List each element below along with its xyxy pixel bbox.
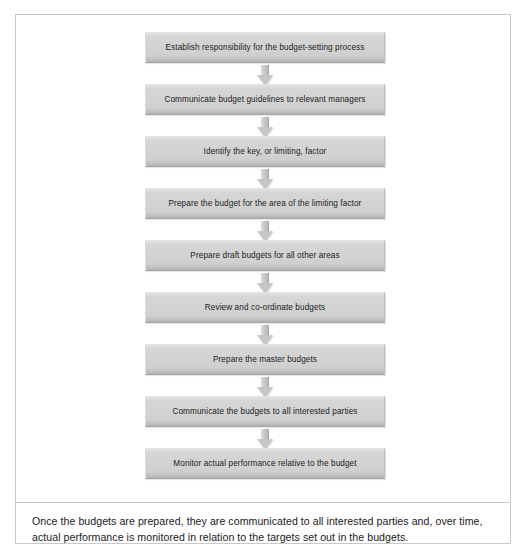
flow-arrow-1-to-2	[257, 65, 273, 86]
flow-step-9: Monitor actual performance relative to t…	[145, 448, 385, 479]
flow-step-5-label: Prepare draft budgets for all other area…	[190, 251, 339, 261]
flow-step-2-label: Communicate budget guidelines to relevan…	[164, 95, 365, 105]
figure-frame: Establish responsibility for the budget-…	[15, 14, 511, 544]
flow-step-8: Communicate the budgets to all intereste…	[145, 396, 385, 427]
flow-arrow-6-to-7	[257, 325, 273, 346]
flow-step-2: Communicate budget guidelines to relevan…	[145, 84, 385, 115]
caption-line-1: Once the budgets are prepared, they are …	[32, 513, 494, 529]
flow-step-1: Establish responsibility for the budget-…	[145, 32, 385, 63]
flow-arrow-4-to-5	[257, 221, 273, 242]
flow-arrow-8-to-9	[257, 429, 273, 450]
flow-arrow-5-to-6	[257, 273, 273, 294]
flow-step-7: Prepare the master budgets	[145, 344, 385, 375]
flow-arrow-2-to-3	[257, 117, 273, 138]
flow-step-5: Prepare draft budgets for all other area…	[145, 240, 385, 271]
flow-step-3-label: Identify the key, or limiting, factor	[204, 147, 327, 157]
flow-step-6-label: Review and co-ordinate budgets	[205, 303, 325, 313]
flow-step-4: Prepare the budget for the area of the l…	[145, 188, 385, 219]
flowchart: Establish responsibility for the budget-…	[16, 15, 510, 502]
flow-step-6: Review and co-ordinate budgets	[145, 292, 385, 323]
flow-step-7-label: Prepare the master budgets	[213, 355, 317, 365]
caption-line-2: actual performance is monitored in relat…	[32, 529, 494, 545]
flow-step-4-label: Prepare the budget for the area of the l…	[169, 199, 362, 209]
flow-step-1-label: Establish responsibility for the budget-…	[166, 43, 365, 53]
flow-arrow-7-to-8	[257, 377, 273, 398]
flow-step-9-label: Monitor actual performance relative to t…	[173, 459, 356, 469]
flow-arrow-3-to-4	[257, 169, 273, 190]
figure-caption: Once the budgets are prepared, they are …	[16, 503, 510, 543]
flow-step-3: Identify the key, or limiting, factor	[145, 136, 385, 167]
flow-step-8-label: Communicate the budgets to all intereste…	[172, 407, 357, 417]
